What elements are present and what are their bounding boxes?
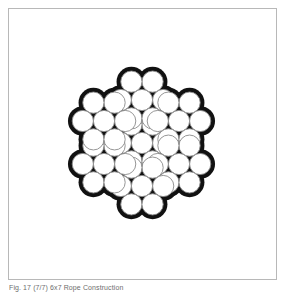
- wire-circle: [83, 92, 104, 113]
- wire-circle: [153, 175, 174, 196]
- figure-page: Fig. 17 (7/7) 6x7 Rope Construction: [0, 0, 287, 294]
- wire-circle: [131, 132, 152, 153]
- figure-caption: Fig. 17 (7/7) 6x7 Rope Construction: [9, 283, 279, 292]
- wire-circle: [190, 153, 211, 174]
- wire-circle: [179, 172, 200, 193]
- wire-circle: [131, 175, 152, 196]
- wire-circle: [83, 129, 104, 150]
- wire-circle: [168, 153, 189, 174]
- wire-circle: [142, 194, 163, 215]
- wire-circle: [179, 92, 200, 113]
- wire-circle: [158, 92, 179, 113]
- wire-circle: [104, 172, 125, 193]
- wire-circle: [168, 110, 189, 131]
- wire-circle: [83, 172, 104, 193]
- rope-wires-layer: [72, 71, 211, 215]
- wire-circle: [142, 157, 163, 178]
- wire-circle: [115, 110, 136, 131]
- wire-circle: [121, 71, 142, 92]
- wire-circle: [147, 110, 168, 131]
- wire-circle: [72, 153, 93, 174]
- wire-rope-cross-section-diagram: [9, 9, 276, 279]
- wire-circle: [131, 89, 152, 110]
- wire-circle: [93, 153, 114, 174]
- wire-circle: [158, 135, 179, 156]
- wire-circle: [179, 135, 200, 156]
- wire-circle: [72, 110, 93, 131]
- wire-circle: [142, 71, 163, 92]
- figure-frame: [8, 8, 277, 280]
- wire-circle: [104, 129, 125, 150]
- wire-circle: [115, 153, 136, 174]
- wire-circle: [104, 92, 125, 113]
- wire-circle: [93, 110, 114, 131]
- wire-circle: [190, 110, 211, 131]
- wire-circle: [121, 194, 142, 215]
